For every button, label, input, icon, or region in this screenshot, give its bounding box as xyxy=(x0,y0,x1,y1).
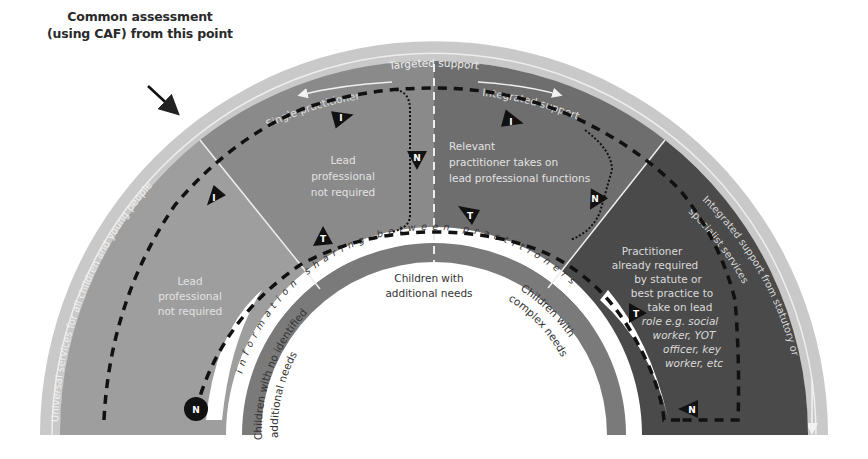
caption-arrow-icon xyxy=(148,86,176,112)
svg-text:N: N xyxy=(413,153,421,163)
additional-needs-label-1: Children with xyxy=(394,272,463,284)
svg-text:role e.g. social: role e.g. social xyxy=(642,315,719,327)
svg-text:I: I xyxy=(509,117,512,127)
svg-text:Lead: Lead xyxy=(330,154,355,166)
svg-text:practitioner takes on: practitioner takes on xyxy=(449,156,558,168)
marker-notify-start: N xyxy=(184,397,208,421)
svg-text:professional: professional xyxy=(158,290,222,302)
additional-needs-label-2: additional needs xyxy=(385,287,472,299)
svg-text:Practitioner: Practitioner xyxy=(622,245,683,257)
svg-text:worker, etc: worker, etc xyxy=(665,357,723,369)
svg-text:T: T xyxy=(467,211,474,221)
svg-text:Lead: Lead xyxy=(177,275,202,287)
svg-text:professional: professional xyxy=(311,170,375,182)
svg-text:I: I xyxy=(212,193,215,203)
svg-text:T: T xyxy=(633,309,640,319)
svg-text:not required: not required xyxy=(311,186,376,198)
svg-text:take on lead: take on lead xyxy=(648,301,713,313)
svg-text:not required: not required xyxy=(158,305,223,317)
svg-text:I: I xyxy=(339,113,342,123)
svg-text:worker, YOT: worker, YOT xyxy=(653,329,717,341)
svg-text:N: N xyxy=(591,194,599,204)
svg-text:lead professional functions: lead professional functions xyxy=(449,172,590,184)
svg-text:already required: already required xyxy=(612,259,699,271)
svg-text:T: T xyxy=(320,234,327,244)
svg-text:best practice to: best practice to xyxy=(631,287,713,299)
svg-text:N: N xyxy=(192,405,200,415)
svg-text:by statute or: by statute or xyxy=(634,273,702,285)
continuum-diagram: Universal services for all children and … xyxy=(0,0,868,459)
svg-text:officer, key: officer, key xyxy=(663,343,722,355)
svg-text:N: N xyxy=(688,405,696,415)
svg-text:Relevant: Relevant xyxy=(449,140,495,152)
